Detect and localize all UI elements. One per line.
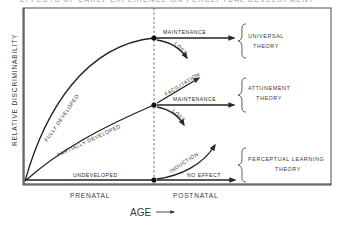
x-axis-label-age: AGE bbox=[130, 207, 151, 218]
theory-attunement-line2: THEORY bbox=[256, 95, 282, 101]
label-maintenance-1: MAINTENANCE bbox=[163, 29, 206, 35]
label-maintenance-2: MAINTENANCE bbox=[173, 96, 216, 102]
label-no-effect: NO EFFECT bbox=[187, 172, 221, 178]
brace-attunement bbox=[238, 78, 246, 112]
curve-fully-developed bbox=[25, 38, 154, 181]
label-loss-2: LOSS bbox=[171, 107, 186, 122]
label-facilitation: FACILITATION bbox=[163, 71, 200, 97]
node-undeveloped bbox=[151, 177, 156, 182]
label-undeveloped: UNDEVELOPED bbox=[73, 172, 118, 178]
theory-universal-line2: THEORY bbox=[253, 43, 279, 49]
theory-perceptual-line1: PERCEPTUAL LEARNING bbox=[248, 156, 324, 162]
theory-attunement-line1: ATTUNEMENT bbox=[248, 85, 291, 91]
theory-perceptual-line2: THEORY bbox=[275, 166, 301, 172]
label-loss-1: LOSS bbox=[173, 40, 188, 55]
label-fully-developed: FULLY DEVELOPED bbox=[43, 93, 80, 143]
diagram-canvas: FULLY DEVELOPED PARTIALLY DEVELOPED UNDE… bbox=[0, 0, 345, 228]
y-axis-label: RELATIVE DISCRIMINABILITY bbox=[11, 34, 18, 146]
theory-universal-line1: UNIVERSAL bbox=[248, 33, 284, 39]
node-partially bbox=[151, 102, 156, 107]
brace-perceptual-learning bbox=[238, 148, 246, 182]
brace-universal bbox=[238, 24, 246, 58]
x-label-postnatal: POSTNATAL bbox=[173, 192, 218, 199]
label-induction: INDUCTION bbox=[168, 151, 199, 174]
x-label-prenatal: PRENATAL bbox=[70, 192, 110, 199]
label-partially-developed: PARTIALLY DEVELOPED bbox=[56, 123, 122, 158]
node-fully bbox=[151, 35, 156, 40]
